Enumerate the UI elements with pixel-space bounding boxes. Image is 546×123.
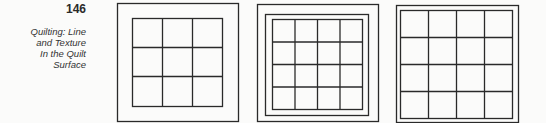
quilt-4x4-double-border [258, 5, 379, 122]
quilt-3x3-single-border [118, 4, 239, 122]
quilt-4x4-narrow-double-border [397, 6, 519, 123]
quilt-diagrams [0, 0, 546, 123]
